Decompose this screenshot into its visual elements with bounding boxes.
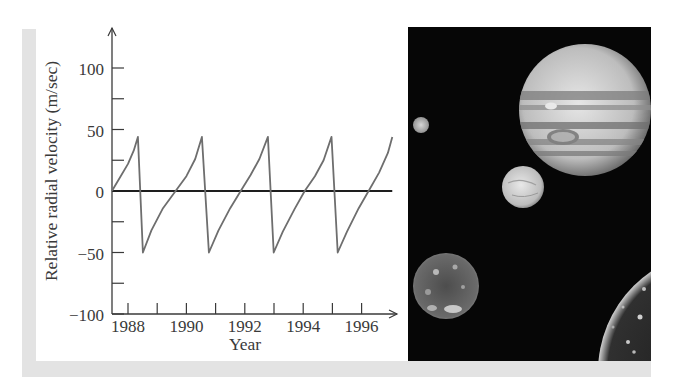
y-axis-label: Relative radial velocity (m/sec): [41, 61, 62, 281]
europa-moon: [502, 166, 544, 208]
callisto-moon: [598, 250, 651, 361]
jupiter-moons-photo: [408, 27, 651, 361]
jupiter-planet: [508, 44, 651, 176]
jupiter-moons-illustration: [408, 27, 651, 361]
x-tick-label: 1990: [169, 318, 203, 335]
x-tick-label: 1988: [111, 318, 145, 335]
velocity-curve: [112, 137, 392, 253]
y-tick-label: 0: [96, 184, 105, 201]
x-axis-label: Year: [229, 336, 261, 354]
y-tick-label: 50: [87, 122, 104, 139]
y-tick-label: −100: [69, 307, 104, 324]
io-moon: [413, 117, 429, 133]
ganymede-moon: [413, 253, 479, 319]
y-tick-label: −50: [77, 245, 104, 262]
x-tick-label: 1992: [228, 318, 262, 335]
x-tick-label: 1996: [345, 318, 379, 335]
y-tick-label: 100: [79, 61, 105, 78]
x-tick-label: 1994: [286, 318, 320, 335]
